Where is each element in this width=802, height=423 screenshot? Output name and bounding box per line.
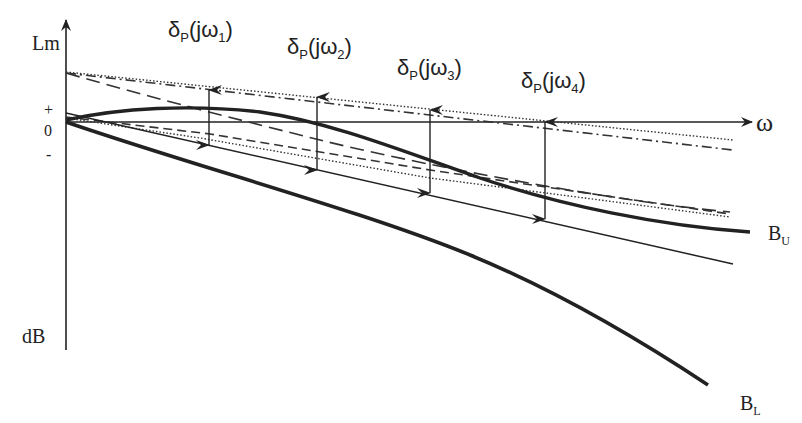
svg-text:BU: BU bbox=[768, 222, 790, 248]
tick-zero: 0 bbox=[44, 122, 52, 139]
uncertainty-label-1: δP(jω1) bbox=[168, 17, 233, 45]
uncertainty-label-4: δP(jω4) bbox=[521, 68, 586, 96]
upper-dashed-template bbox=[66, 73, 730, 212]
x-axis-label-omega: ω bbox=[756, 108, 773, 137]
lower-bound-label: BL bbox=[740, 392, 761, 418]
y-axis-label-lm: Lm bbox=[32, 32, 60, 54]
upper-dashdot-template bbox=[66, 73, 733, 150]
svg-text:BL: BL bbox=[740, 392, 761, 418]
svg-text:δP(jω1): δP(jω1) bbox=[168, 17, 233, 45]
uncertainty-label-2: δP(jω2) bbox=[287, 34, 352, 62]
svg-text:δP(jω3): δP(jω3) bbox=[397, 55, 462, 83]
bode-magnitude-diagram: Lm dB ω + 0 - δP(jω1) δP(jω2) δP(jω3) δP… bbox=[0, 0, 802, 423]
upper-bound-label: BU bbox=[768, 222, 790, 248]
lower-dotted-template bbox=[66, 118, 730, 217]
upper-bound-curve bbox=[66, 108, 750, 232]
thin-solid-line bbox=[66, 113, 733, 264]
tick-plus: + bbox=[44, 101, 53, 118]
y-axis-label-db: dB bbox=[22, 325, 45, 347]
svg-text:δP(jω4): δP(jω4) bbox=[521, 68, 586, 96]
lower-bound-curve bbox=[66, 122, 708, 385]
uncertainty-label-3: δP(jω3) bbox=[397, 55, 462, 83]
tick-minus: - bbox=[46, 146, 51, 163]
upper-dotted-template bbox=[66, 72, 733, 140]
svg-text:δP(jω2): δP(jω2) bbox=[287, 34, 352, 62]
